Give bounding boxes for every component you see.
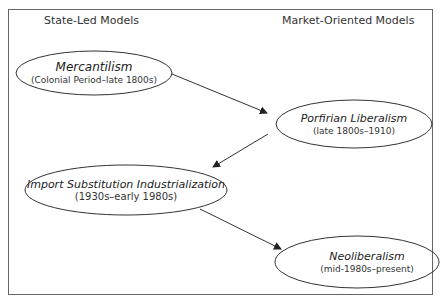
node-mercantilism: Mercantilism (Colonial Period–late 1800s… [16,51,172,95]
node-neoliberalism: Neoliberalism (mid-1980s–present) [285,236,444,288]
node-title: Import Substitution Industrialization [27,178,225,191]
node-title: Neoliberalism [329,250,404,263]
arrow-porfirian-to-isi [213,134,268,167]
node-period: (Colonial Period–late 1800s) [31,74,157,86]
node-import-substitution: Import Substitution Industrialization (1… [25,165,227,215]
node-period: (1930s–early 1980s) [75,191,177,203]
arrow-mercantilism-to-porfirian [172,74,267,113]
node-porfirian-liberalism: Porfirian Liberalism (late 1800s–1910) [276,100,432,148]
node-period: (mid-1980s–present) [320,263,414,275]
node-title: Porfirian Liberalism [301,112,408,125]
arrow-isi-to-neoliberalism [200,209,281,249]
node-title: Mercantilism [56,61,133,74]
node-period: (late 1800s–1910) [313,125,395,137]
